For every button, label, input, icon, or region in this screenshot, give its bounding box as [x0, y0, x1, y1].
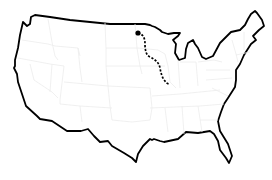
map-canvas — [0, 0, 272, 180]
us-map — [0, 0, 272, 180]
route-start-marker — [135, 30, 140, 35]
